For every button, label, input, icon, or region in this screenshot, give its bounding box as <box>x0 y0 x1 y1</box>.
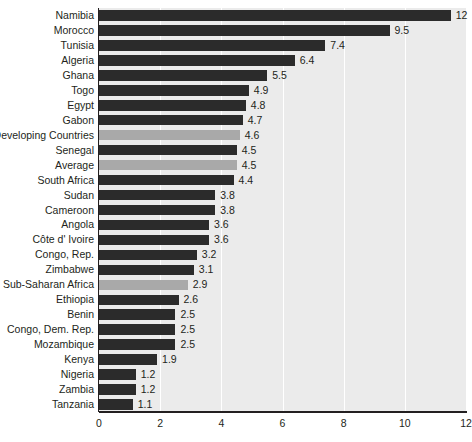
category-label: Namibia <box>55 10 94 21</box>
category-label: Tunisia <box>61 40 94 51</box>
category-label: Gabon <box>62 115 94 126</box>
bar-value-label: 2.6 <box>184 294 199 305</box>
category-label: Benin <box>67 309 94 320</box>
category-label: Egypt <box>67 100 94 111</box>
bar-value-label: 4.5 <box>242 160 257 171</box>
bar <box>99 25 390 36</box>
bar <box>99 205 215 216</box>
bar-value-label: 3.8 <box>220 190 235 201</box>
x-tick-label: 2 <box>157 417 163 429</box>
bar-value-label: 7.4 <box>330 40 345 51</box>
category-label: Algeria <box>61 55 94 66</box>
bar <box>99 85 249 96</box>
bar-highlighted <box>99 160 237 171</box>
bar-value-label: 3.8 <box>220 205 235 216</box>
category-label: Zambia <box>59 384 94 395</box>
x-tick-label: 10 <box>399 417 411 429</box>
bar-value-label: 2.5 <box>180 309 195 320</box>
bar <box>99 324 175 335</box>
bar-value-label: 1.9 <box>162 354 177 365</box>
bar-value-label: 9.5 <box>395 25 410 36</box>
bar-value-label: 3.1 <box>199 264 214 275</box>
bar-value-label: 4.5 <box>242 145 257 156</box>
bar <box>99 145 237 156</box>
category-label: Kenya <box>64 354 94 365</box>
category-label: Ethiopia <box>56 294 94 305</box>
bar-rows: Namibia12Morocco9.5Tunisia7.4Algeria6.4G… <box>0 8 470 412</box>
category-label: Côte d' Ivoire <box>32 234 94 245</box>
bar-value-label: 2.9 <box>193 279 208 290</box>
bar <box>99 100 246 111</box>
category-label: Developing Countries <box>0 130 94 141</box>
category-label: Cameroon <box>45 205 94 216</box>
bar-value-label: 3.6 <box>214 219 229 230</box>
bar-value-label: 4.9 <box>254 85 269 96</box>
bar <box>99 309 175 320</box>
category-label: Average <box>55 160 94 171</box>
category-label: Nigeria <box>61 369 94 380</box>
category-label: Congo, Dem. Rep. <box>7 324 94 335</box>
x-tick-label: 12 <box>460 417 472 429</box>
bar-highlighted <box>99 280 188 291</box>
category-label: Morocco <box>54 25 94 36</box>
bar-value-label: 4.7 <box>248 115 263 126</box>
category-label: Angola <box>61 219 94 230</box>
category-label: Sub-Saharan Africa <box>3 279 94 290</box>
bar-value-label: 12 <box>456 10 468 21</box>
bar <box>99 55 295 66</box>
x-tick-label: 6 <box>280 417 286 429</box>
category-label: Sudan <box>64 190 94 201</box>
x-tick-label: 4 <box>218 417 224 429</box>
bar <box>99 339 175 350</box>
category-label: Zimbabwe <box>46 264 94 275</box>
x-tick-label: 0 <box>96 417 102 429</box>
bar-value-label: 3.6 <box>214 234 229 245</box>
category-label: Congo, Rep. <box>35 249 94 260</box>
bar <box>99 10 451 21</box>
bar-value-label: 3.2 <box>202 249 217 260</box>
bar-value-label: 5.5 <box>272 70 287 81</box>
bar <box>99 40 325 51</box>
category-label: Ghana <box>62 70 94 81</box>
x-tick-label: 8 <box>341 417 347 429</box>
bar <box>99 235 209 246</box>
chart-title-clipped <box>0 0 470 3</box>
bar-value-label: 2.5 <box>180 324 195 335</box>
category-label: Togo <box>71 85 94 96</box>
bar-value-label: 1.2 <box>141 384 156 395</box>
category-label: South Africa <box>37 175 94 186</box>
bar <box>99 175 234 186</box>
bar-value-label: 4.6 <box>245 130 260 141</box>
category-label: Tanzania <box>52 399 94 410</box>
bar <box>99 250 197 261</box>
bar-value-label: 1.2 <box>141 369 156 380</box>
bar-highlighted <box>99 130 240 141</box>
bar <box>99 295 179 306</box>
bar <box>99 220 209 231</box>
bar-value-label: 6.4 <box>300 55 315 66</box>
bar-value-label: 1.1 <box>138 399 153 410</box>
bar <box>99 354 157 365</box>
category-label: Mozambique <box>34 339 94 350</box>
bar <box>99 384 136 395</box>
bar <box>99 399 133 410</box>
bar <box>99 70 267 81</box>
bar <box>99 190 215 201</box>
category-label: Senegal <box>55 145 94 156</box>
bar <box>99 115 243 126</box>
bar-value-label: 2.5 <box>180 339 195 350</box>
bar <box>99 369 136 380</box>
bar <box>99 265 194 276</box>
bar-value-label: 4.4 <box>239 175 254 186</box>
bar-value-label: 4.8 <box>251 100 266 111</box>
